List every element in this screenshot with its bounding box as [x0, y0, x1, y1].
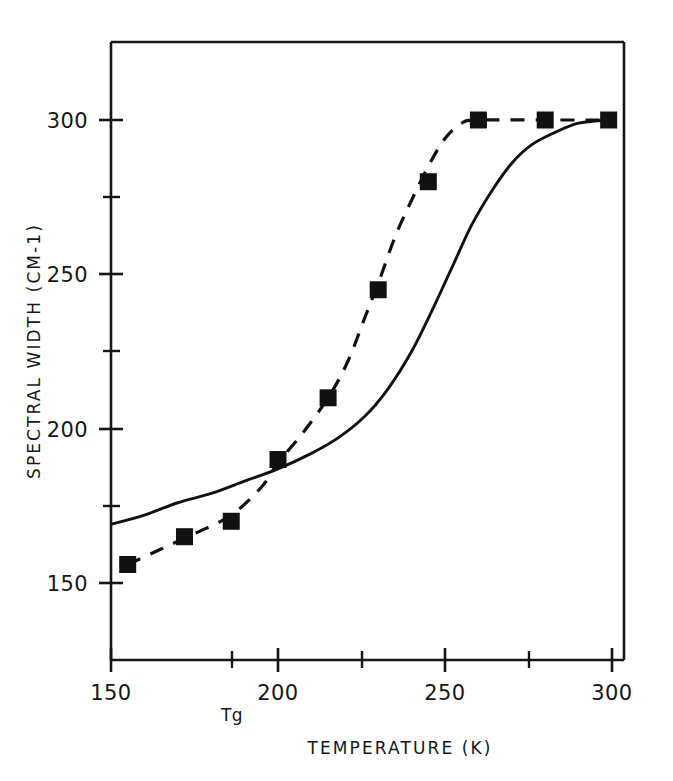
- y-tick-label-250: 250: [47, 263, 88, 287]
- x-tick-label-300: 300: [591, 681, 632, 705]
- y-tick-label-150: 150: [47, 572, 88, 596]
- data-point-marker: [270, 451, 287, 468]
- chart-figure: 300 250 200 150 150 200 250 300 Tg TEMPE…: [0, 0, 673, 781]
- data-point-marker: [223, 513, 240, 530]
- data-point-marker: [600, 112, 617, 129]
- y-axis-title: SPECTRAL WIDTH (CM-1): [24, 223, 44, 479]
- data-point-marker: [420, 173, 437, 190]
- x-axis-title: TEMPERATURE (K): [307, 738, 493, 758]
- spectral-width-vs-temperature-chart: 300 250 200 150 150 200 250 300 Tg TEMPE…: [0, 0, 673, 781]
- data-point-marker: [119, 556, 136, 573]
- y-tick-label-300: 300: [47, 109, 88, 133]
- data-point-marker: [470, 112, 487, 129]
- y-tick-label-200: 200: [47, 418, 88, 442]
- x-tick-label-150: 150: [90, 681, 131, 705]
- x-tick-label-200: 200: [257, 681, 298, 705]
- data-point-marker: [176, 528, 193, 545]
- data-point-marker: [537, 112, 554, 129]
- tg-annotation-label: Tg: [220, 705, 243, 725]
- x-tick-label-250: 250: [424, 681, 465, 705]
- data-point-marker: [370, 281, 387, 298]
- data-point-marker: [320, 389, 337, 406]
